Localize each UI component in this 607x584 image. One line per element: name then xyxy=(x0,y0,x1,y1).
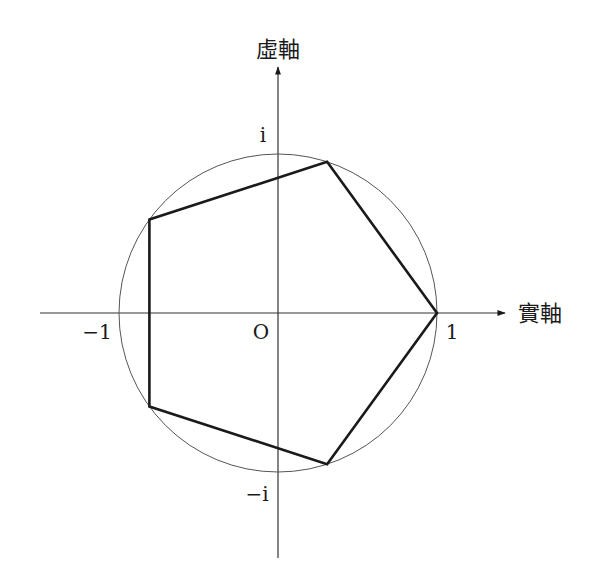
imaginary-axis-label: 虛軸 xyxy=(256,37,300,62)
origin-label: O xyxy=(253,320,269,344)
real-axis-label: 實軸 xyxy=(518,301,562,326)
tick-label-positive-imaginary: i xyxy=(260,123,266,147)
tick-label-positive-real: 1 xyxy=(446,320,459,344)
tick-label-negative-imaginary: −i xyxy=(245,482,268,506)
complex-plane-diagram: 虛軸 實軸 i −i −1 1 O xyxy=(0,0,607,584)
tick-label-negative-real: −1 xyxy=(82,320,111,344)
